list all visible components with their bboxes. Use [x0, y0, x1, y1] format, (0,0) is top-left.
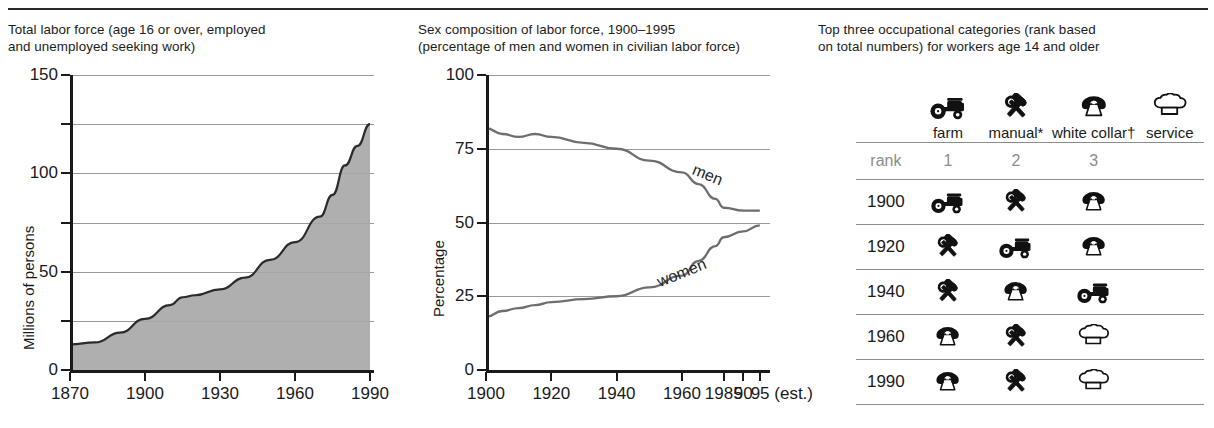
chart1-x-tick-label: 1930 — [201, 384, 239, 404]
telephone-icon — [1078, 234, 1109, 260]
chart2-series-label-men: men — [690, 161, 726, 189]
chart2-x-tick — [550, 372, 552, 381]
row-trailing-spacer — [1135, 360, 1204, 405]
chart2-x-axis — [486, 370, 770, 373]
chart1-y-tick — [61, 369, 70, 371]
chart2-x-tick-label: 95 (est.) — [751, 384, 813, 404]
chart1-y-tick — [61, 172, 70, 174]
chart2-gridline — [486, 223, 770, 224]
legend-label: farm — [916, 121, 980, 141]
chart1-x-axis — [70, 370, 374, 373]
tractor-icon — [980, 227, 1052, 267]
chart2-x-tick — [759, 372, 761, 381]
chef-hat-icon — [1052, 317, 1136, 357]
chart1-x-tick — [219, 372, 221, 381]
row-year-label: 1940 — [856, 270, 916, 315]
table-row: 1940 — [856, 270, 1204, 315]
chart-total-labor-force: Millions of persons 05010015018701900193… — [8, 65, 408, 405]
telephone-icon — [1000, 279, 1031, 305]
chart1-x-tick-label: 1990 — [351, 384, 389, 404]
chart1-x-tick — [369, 372, 371, 381]
row-year-label: 1920 — [856, 225, 916, 270]
chef-hat-icon — [1135, 87, 1204, 121]
row-icon-cell — [980, 225, 1052, 270]
rank-value: 2 — [980, 143, 1052, 180]
chart2-y-tick-label: 50 — [430, 213, 474, 233]
telephone-icon — [932, 324, 963, 350]
hammer-wrench-icon — [980, 87, 1052, 121]
row-icon-cell — [1052, 225, 1136, 270]
row-trailing-spacer — [1135, 180, 1204, 225]
chart2-gridline — [486, 75, 770, 76]
chart2-y-tick — [477, 222, 486, 224]
chart2-y-tick — [477, 148, 486, 150]
chart2-x-tick-label: 1920 — [532, 384, 570, 404]
chart1-y-tick — [61, 74, 70, 76]
hammer-wrench-icon — [1001, 324, 1031, 350]
chart-sex-composition: Percentage 02550751001900192019401960198… — [418, 65, 810, 405]
rank-label: rank — [856, 143, 916, 180]
chef-hat-icon — [1077, 369, 1110, 395]
panel-total-labor-force: Total labor force (age 16 or over, emplo… — [8, 22, 408, 422]
hammer-wrench-icon — [1000, 93, 1032, 121]
chart1-gridline — [70, 272, 374, 273]
table-rank-row: rank123 — [856, 143, 1204, 180]
header-cell-manual: manual* — [980, 86, 1052, 143]
header-spacer — [856, 86, 916, 143]
chart2-x-tick — [616, 372, 618, 381]
chef-hat-icon — [1152, 93, 1187, 121]
chart1-y-tick-label: 50 — [18, 262, 58, 282]
chart2-y-tick — [477, 295, 486, 297]
hammer-wrench-icon — [1001, 369, 1031, 395]
row-icon-cell — [980, 270, 1052, 315]
tractor-icon — [916, 182, 980, 222]
chart2-series-label-women: women — [654, 255, 709, 291]
row-icon-cell — [980, 360, 1052, 405]
chart1-x-tick-label: 1960 — [276, 384, 314, 404]
chart2-x-tick — [742, 372, 744, 381]
chart2-y-tick-label: 25 — [430, 286, 474, 306]
row-icon-cell — [1052, 180, 1136, 225]
chart2-x-tick-label: 1900 — [467, 384, 505, 404]
chart1-y-axis — [70, 75, 73, 372]
row-icon-cell — [916, 315, 980, 360]
top-divider-rule — [8, 8, 1208, 10]
tractor-icon — [1076, 279, 1111, 305]
chart1-gridline — [70, 173, 374, 174]
chart2-y-tick-label: 100 — [430, 65, 474, 85]
row-icon-cell — [980, 180, 1052, 225]
table-bottom-rule — [856, 405, 1204, 406]
tractor-icon — [998, 234, 1033, 260]
hammer-wrench-icon — [980, 317, 1052, 357]
chart2-y-tick — [477, 369, 486, 371]
chart1-y-tick — [61, 123, 70, 125]
row-icon-cell — [1052, 360, 1136, 405]
chef-hat-icon — [1052, 362, 1136, 402]
chart1-gridline — [70, 223, 374, 224]
panel-sex-composition: Sex composition of labor force, 1900–199… — [418, 22, 810, 422]
telephone-icon — [1078, 189, 1109, 215]
legend-label: service — [1135, 121, 1204, 141]
chart2-y-tick-label: 75 — [430, 139, 474, 159]
header-cell-whitecollar: white collar† — [1052, 86, 1136, 143]
chart1-y-tick-label: 150 — [18, 65, 58, 85]
rank-value: 1 — [916, 143, 980, 180]
table-row: 1990 — [856, 360, 1204, 405]
telephone-icon — [1052, 182, 1136, 222]
table-row: 1960 — [856, 315, 1204, 360]
rank-spacer — [1135, 143, 1204, 180]
row-year-label: 1990 — [856, 360, 916, 405]
tractor-icon — [916, 87, 980, 121]
chart1-gridline — [70, 124, 374, 125]
telephone-icon — [980, 272, 1052, 312]
chart1-y-tick-label: 100 — [18, 163, 58, 183]
hammer-wrench-icon — [1001, 189, 1031, 215]
tractor-icon — [930, 189, 965, 215]
row-icon-cell — [980, 315, 1052, 360]
chart2-y-tick — [477, 74, 486, 76]
telephone-icon — [932, 369, 963, 395]
chart1-y-axis-label: Millions of persons — [20, 226, 37, 350]
chart2-gridline — [486, 296, 770, 297]
legend-label: white collar† — [1052, 121, 1136, 141]
chart2-y-axis — [486, 75, 489, 372]
